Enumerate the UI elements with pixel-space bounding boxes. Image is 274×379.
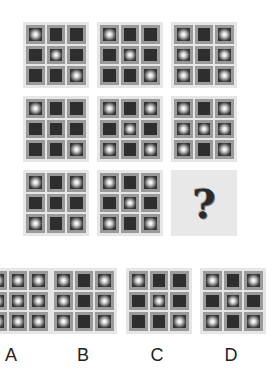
dot-icon [132, 274, 145, 287]
empty-square [100, 120, 119, 139]
dot-icon [218, 28, 231, 41]
dot-square [244, 312, 263, 331]
empty-square [67, 25, 86, 44]
dot-square [67, 66, 86, 85]
dot-icon [103, 217, 116, 230]
dark-square-icon [173, 295, 186, 308]
matrix-cell-r2c1 [23, 96, 89, 162]
empty-square [195, 46, 214, 65]
dark-square-icon [173, 274, 186, 287]
empty-square [100, 46, 119, 65]
dot-square [121, 46, 140, 65]
dot-square [67, 214, 86, 233]
dark-square-icon [29, 123, 42, 136]
empty-square [26, 66, 45, 85]
empty-square [100, 194, 119, 213]
dot-icon [173, 315, 186, 328]
matrix-cell-r3c2 [97, 170, 163, 236]
dot-square [29, 292, 48, 311]
dot-icon [218, 49, 231, 62]
dot-icon [50, 49, 63, 62]
dot-icon [29, 28, 42, 41]
dot-square [141, 140, 160, 159]
dot-icon [0, 315, 4, 328]
dot-square [174, 140, 193, 159]
dot-icon [177, 102, 190, 115]
matrix-cell-r3c1 [23, 170, 89, 236]
empty-square [26, 120, 45, 139]
dot-icon [177, 69, 190, 82]
dot-icon [98, 274, 111, 287]
dot-icon [218, 102, 231, 115]
dark-square-icon [198, 102, 211, 115]
dot-icon [57, 274, 70, 287]
dot-icon [153, 295, 166, 308]
dot-square [215, 99, 234, 118]
dot-icon [227, 295, 240, 308]
dot-icon [206, 315, 219, 328]
dot-icon [70, 176, 83, 189]
dot-icon [57, 315, 70, 328]
matrix-cell-r2c3 [171, 96, 237, 162]
empty-square [47, 173, 66, 192]
dot-square [195, 120, 214, 139]
empty-square [141, 25, 160, 44]
dot-icon [247, 315, 260, 328]
empty-square [47, 120, 66, 139]
dark-square-icon [50, 143, 63, 156]
dot-square [0, 271, 7, 290]
empty-square [47, 25, 66, 44]
empty-square [75, 271, 94, 290]
dot-square [215, 46, 234, 65]
dot-square [215, 66, 234, 85]
dot-square [141, 66, 160, 85]
option-d[interactable] [200, 268, 266, 334]
empty-square [75, 312, 94, 331]
empty-square [244, 292, 263, 311]
dot-square [54, 312, 73, 331]
dot-icon [32, 295, 45, 308]
dot-square [26, 25, 45, 44]
dark-square-icon [29, 69, 42, 82]
option-b[interactable] [51, 268, 117, 334]
dot-square [54, 292, 73, 311]
dark-square-icon [198, 143, 211, 156]
option-c[interactable] [126, 268, 192, 334]
dot-icon [103, 143, 116, 156]
dot-square [141, 173, 160, 192]
empty-square [121, 214, 140, 233]
dark-square-icon [50, 28, 63, 41]
dark-square-icon [198, 28, 211, 41]
dot-icon [103, 28, 116, 41]
dark-square-icon [50, 69, 63, 82]
empty-square [141, 46, 160, 65]
dot-icon [0, 274, 4, 287]
dark-square-icon [70, 49, 83, 62]
dot-square [67, 140, 86, 159]
dot-square [100, 25, 119, 44]
dark-square-icon [124, 102, 137, 115]
dot-square [244, 271, 263, 290]
empty-square [121, 66, 140, 85]
missing-cell: ? [171, 170, 237, 236]
dot-square [29, 271, 48, 290]
empty-square [121, 140, 140, 159]
dot-square [174, 120, 193, 139]
dot-square [95, 271, 114, 290]
dot-square [129, 271, 148, 290]
empty-square [67, 120, 86, 139]
dot-square [26, 214, 45, 233]
option-a[interactable] [0, 268, 51, 334]
dark-square-icon [103, 49, 116, 62]
dark-square-icon [198, 69, 211, 82]
dot-icon [177, 123, 190, 136]
dot-icon [0, 295, 4, 308]
dark-square-icon [206, 295, 219, 308]
dark-square-icon [124, 69, 137, 82]
dot-icon [177, 143, 190, 156]
dot-square [26, 173, 45, 192]
empty-square [67, 46, 86, 65]
dot-square [215, 120, 234, 139]
dot-icon [32, 315, 45, 328]
dark-square-icon [50, 197, 63, 210]
